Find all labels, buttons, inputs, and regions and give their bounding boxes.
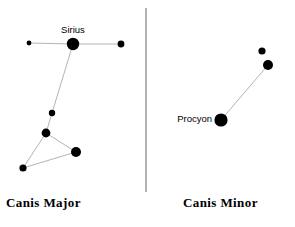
star-gomeisa bbox=[263, 60, 273, 70]
constellation-line-star-junction-to-star-southwest bbox=[23, 133, 46, 168]
star-labels-layer: SiriusProcyon bbox=[61, 24, 212, 124]
constellation-canvas: SiriusProcyon bbox=[0, 0, 295, 227]
constellation-line-sirius-to-star-mid bbox=[52, 44, 73, 113]
star-procyon bbox=[214, 113, 227, 126]
star-star-east bbox=[118, 41, 125, 48]
caption-canis-major: Canis Major bbox=[6, 195, 81, 211]
star-star-southwest bbox=[19, 164, 26, 171]
star-star-west bbox=[27, 41, 32, 46]
constellation-line-star-west-to-sirius bbox=[29, 43, 73, 44]
star-star-mid bbox=[49, 110, 55, 116]
constellation-line-procyon-to-gomeisa bbox=[221, 65, 268, 120]
star-star-junction bbox=[42, 129, 51, 138]
star-star-upper bbox=[258, 47, 265, 54]
star-label-procyon: Procyon bbox=[177, 113, 212, 124]
star-star-southeast bbox=[71, 147, 81, 157]
caption-canis-minor: Canis Minor bbox=[183, 195, 258, 211]
constellation-line-star-junction-to-star-southeast bbox=[46, 133, 76, 152]
star-label-sirius: Sirius bbox=[61, 24, 85, 35]
constellation-figure: SiriusProcyon Canis Major Canis Minor bbox=[0, 0, 295, 227]
star-sirius bbox=[67, 38, 79, 50]
constellation-line-star-southwest-to-star-southeast bbox=[23, 152, 76, 168]
